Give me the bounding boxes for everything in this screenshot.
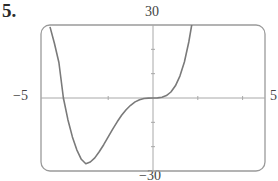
plot-area <box>0 0 278 181</box>
